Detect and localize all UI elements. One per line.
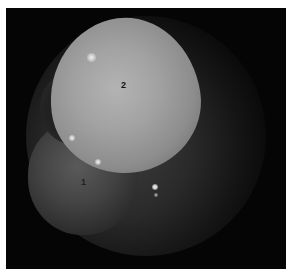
specular-highlight [152,184,158,190]
specular-highlight [87,53,96,62]
endoscopic-image-frame: 2 1 [6,8,286,269]
specular-highlight [154,193,158,197]
label-1: 1 [81,177,86,187]
specular-highlight [69,135,75,141]
label-2: 2 [121,80,126,90]
specular-highlight [95,159,101,165]
